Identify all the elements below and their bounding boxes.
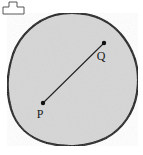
geometry-figure: P Q <box>0 0 143 155</box>
point-q-label: Q <box>97 49 106 63</box>
point-q-marker <box>102 41 106 45</box>
point-p-label: P <box>37 107 44 121</box>
convex-region-shape <box>8 13 138 146</box>
point-p-marker <box>41 101 45 105</box>
t-shape-icon <box>3 2 24 14</box>
figure-container: P Q <box>0 0 143 155</box>
